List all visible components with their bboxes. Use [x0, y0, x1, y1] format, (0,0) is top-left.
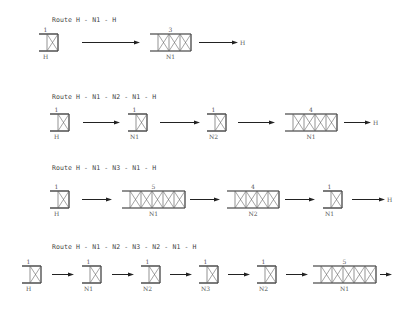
flow-arrow-icon: [112, 273, 134, 277]
node-label: N1: [340, 285, 349, 292]
server-count-label: 1: [328, 183, 332, 190]
node-label: N1: [84, 285, 93, 292]
node-label: N2: [209, 133, 218, 140]
server-count-label: 1: [55, 106, 59, 113]
server-count-label: 1: [44, 26, 48, 33]
flow-arrow-icon: [190, 198, 220, 202]
server-count-label: 4: [251, 183, 255, 190]
flow-arrow-icon: H: [352, 196, 392, 203]
route-row: 1H3N1H: [39, 26, 245, 60]
exit-node-label: H: [387, 196, 392, 203]
route-diagram: 1H3N1H1H1N11N24N1H1H5N14N21N1H1H1N11N21N…: [0, 0, 410, 315]
queue-box: 5N1: [122, 183, 185, 217]
exit-node-label: H: [240, 39, 245, 46]
route-row: 1H1N11N24N1H: [50, 106, 378, 140]
queue-box: 1N1: [323, 183, 342, 217]
flow-arrow-icon: [238, 121, 275, 125]
server-count-label: 4: [309, 106, 313, 113]
queue-box: 5N1: [313, 258, 376, 292]
node-label: H: [54, 210, 59, 217]
queue-box: 1N2: [207, 106, 226, 140]
queue-box: 1N2: [141, 258, 160, 292]
queue-box: 1N1: [128, 106, 147, 140]
flow-arrow-icon: [286, 273, 308, 277]
queue-box: 1N3: [199, 258, 218, 292]
flow-arrow-icon: H: [199, 39, 245, 46]
queue-box: 1N1: [82, 258, 101, 292]
node-label: N2: [259, 285, 268, 292]
queue-box: 1N2: [257, 258, 276, 292]
server-count-label: 1: [87, 258, 91, 265]
queue-box: 1H: [22, 258, 41, 292]
node-label: N1: [306, 133, 315, 140]
flow-arrow-icon: [82, 41, 140, 45]
server-count-label: 1: [212, 106, 216, 113]
server-count-label: 1: [27, 258, 31, 265]
node-label: H: [43, 53, 48, 60]
server-count-label: 1: [133, 106, 137, 113]
node-label: H: [54, 133, 59, 140]
node-label: N1: [325, 210, 334, 217]
server-count-label: 1: [262, 258, 266, 265]
node-label: N1: [130, 133, 139, 140]
node-label: N1: [149, 210, 158, 217]
flow-arrow-icon: [52, 273, 74, 277]
node-label: N2: [143, 285, 152, 292]
exit-node-label: H: [373, 119, 378, 126]
flow-arrow-icon: [83, 121, 120, 125]
server-count-label: 5: [152, 183, 156, 190]
server-count-label: 3: [169, 26, 173, 33]
server-count-label: 1: [146, 258, 150, 265]
queue-box: 1H: [50, 106, 69, 140]
node-label: N1: [166, 53, 175, 60]
server-count-label: 1: [204, 258, 208, 265]
queue-box: 1H: [39, 26, 58, 60]
flow-arrow-icon: [170, 273, 192, 277]
flow-arrow-icon: H: [344, 119, 378, 126]
queue-box: 1H: [50, 183, 69, 217]
queue-box: 3N1: [150, 26, 191, 60]
node-label: H: [26, 285, 31, 292]
flow-arrow-icon: [160, 121, 200, 125]
flow-arrow-icon: [228, 273, 250, 277]
route-row: 1H1N11N21N31N25N1: [22, 258, 392, 292]
queue-box: 4N1: [285, 106, 337, 140]
node-label: N3: [201, 285, 210, 292]
node-label: N2: [248, 210, 257, 217]
flow-arrow-icon: [285, 198, 315, 202]
flow-arrow-icon: [82, 198, 112, 202]
route-row: 1H5N14N21N1H: [50, 183, 392, 217]
server-count-label: 1: [55, 183, 59, 190]
server-count-label: 5: [343, 258, 347, 265]
queue-box: 4N2: [227, 183, 279, 217]
flow-arrow-icon: [380, 273, 392, 277]
